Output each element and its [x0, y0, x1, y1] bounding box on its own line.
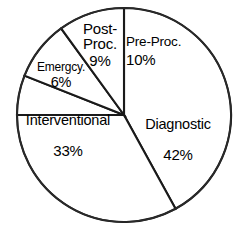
slice-label-post-proc-name-line1: Post-	[72, 21, 128, 36]
slice-label-pre-proc: Pre-Proc. 10%	[126, 35, 198, 67]
slice-label-pre-proc-value: 10%	[126, 52, 198, 67]
slice-label-post-proc-name-line2: Proc.	[72, 36, 128, 51]
slice-label-pre-proc-name: Pre-Proc.	[126, 35, 198, 49]
slice-label-diagnostic-name: Diagnostic	[136, 117, 220, 132]
slice-label-interventional: Interventional 33%	[12, 113, 124, 158]
slice-label-diagnostic: Diagnostic 42%	[136, 117, 220, 162]
slice-label-interventional-value: 33%	[12, 143, 124, 158]
slice-label-diagnostic-value: 42%	[136, 147, 220, 162]
slice-label-emergency-name: Emergcy.	[26, 61, 96, 73]
pie-chart: Pre-Proc. 10% Post- Proc. 9% Emergcy. 6%…	[0, 0, 243, 239]
slice-label-emergency: Emergcy. 6%	[26, 61, 96, 90]
slice-label-interventional-name: Interventional	[12, 113, 124, 128]
slice-label-emergency-value: 6%	[26, 75, 96, 90]
